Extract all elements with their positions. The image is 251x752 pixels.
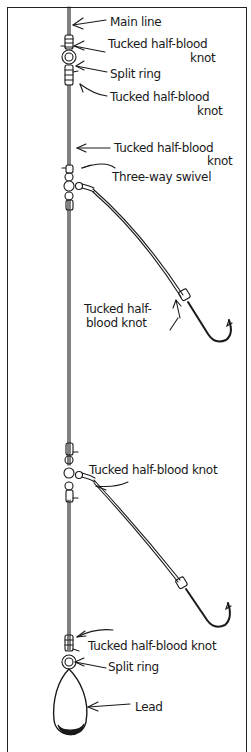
label-swivel2-knot: Tucked half-blood knot: [89, 464, 217, 477]
label-knot-2b: knot: [197, 105, 222, 118]
label-main-line: Main line: [110, 16, 161, 29]
label-knot-1b: knot: [190, 52, 215, 65]
main-line: [68, 7, 70, 650]
label-hook1-knot-b: blood knot: [86, 317, 147, 330]
hook-1-icon: [178, 288, 232, 341]
split-ring-bottom-icon: [62, 655, 76, 669]
label-knot-3a: Tucked half-blood: [114, 142, 213, 155]
pointer-arrows: [73, 18, 181, 711]
label-hook1-knot-a: Tucked half-: [84, 303, 152, 316]
split-ring-top-icon: [62, 50, 76, 64]
label-knot-3b: knot: [207, 155, 232, 168]
label-bottom-knot: Tucked half-blood knot: [88, 640, 216, 653]
lead-weight-icon: [54, 669, 87, 735]
label-three-way-swivel: Three-way swivel: [112, 171, 211, 184]
label-split-ring-top: Split ring: [110, 68, 161, 81]
hook-2-icon: [175, 576, 231, 626]
dropper-line-1: [93, 189, 183, 297]
label-knot-2a: Tucked half-blood: [110, 91, 209, 104]
label-lead: Lead: [135, 701, 163, 714]
label-split-ring-bottom: Split ring: [108, 661, 159, 674]
label-knot-1a: Tucked half-blood: [108, 38, 207, 51]
knot-second-icon: [65, 65, 78, 85]
knot-top-icon: [61, 35, 73, 49]
dropper-line-2: [94, 480, 180, 582]
three-way-swivel-icon: [62, 165, 94, 210]
